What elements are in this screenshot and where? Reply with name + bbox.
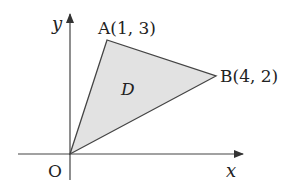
region-d [70, 40, 216, 154]
point-a-label: A(1, 3) [97, 18, 156, 38]
x-axis-label: x [226, 160, 236, 181]
origin-label: O [48, 161, 62, 181]
coordinate-diagram: y x O A(1, 3) B(4, 2) D [0, 0, 299, 190]
y-axis-label: y [51, 13, 63, 34]
point-b-label: B(4, 2) [220, 66, 278, 86]
region-label: D [120, 79, 135, 99]
